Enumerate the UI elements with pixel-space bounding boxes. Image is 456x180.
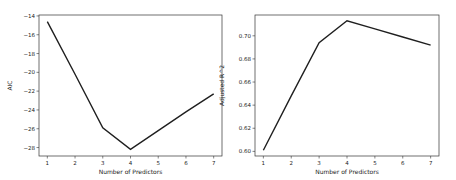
x-tick-label: 3 [317, 160, 321, 166]
data-line [47, 22, 213, 150]
x-tick-label: 7 [429, 160, 433, 166]
y-axis-label: Adjusted R^2 [218, 65, 226, 106]
y-tick-label: −24 [23, 107, 35, 113]
x-tick-label: 4 [129, 160, 133, 166]
y-tick-label: 0.62 [239, 125, 251, 131]
y-axis-label: AIC [6, 80, 13, 90]
x-tick-label: 2 [73, 160, 77, 166]
x-tick-label: 5 [156, 160, 160, 166]
x-tick-label: 6 [401, 160, 405, 166]
x-tick-label: 3 [101, 160, 105, 166]
x-tick-label: 5 [373, 160, 377, 166]
x-tick-label: 6 [184, 160, 188, 166]
x-tick-label: 2 [289, 160, 293, 166]
y-tick-label: 0.60 [239, 148, 252, 154]
y-tick-label: 0.68 [239, 56, 252, 62]
y-tick-label: −20 [23, 69, 35, 75]
chart-canvas: 1234567−14−16−18−20−22−24−26−28Number of… [0, 0, 456, 180]
y-tick-label: 0.70 [239, 33, 252, 39]
x-tick-label: 1 [46, 160, 50, 166]
y-tick-label: 0.66 [239, 79, 252, 85]
x-tick-label: 4 [345, 160, 349, 166]
y-tick-label: −18 [23, 51, 35, 57]
x-axis-label: Number of Predictors [99, 168, 163, 175]
y-tick-label: −14 [23, 13, 35, 19]
y-tick-label: −16 [23, 32, 35, 38]
axes-frame [39, 15, 222, 156]
x-tick-label: 7 [212, 160, 216, 166]
axes-frame [255, 15, 439, 156]
plot-adjusted-r2: 12345670.600.620.640.660.680.70Number of… [218, 15, 439, 175]
data-line [263, 21, 430, 150]
y-tick-label: −28 [23, 145, 35, 151]
y-tick-label: −26 [23, 126, 35, 132]
x-tick-label: 1 [262, 160, 266, 166]
plot-aic: 1234567−14−16−18−20−22−24−26−28Number of… [6, 13, 222, 175]
x-axis-label: Number of Predictors [315, 168, 379, 175]
y-tick-label: 0.64 [239, 102, 252, 108]
y-tick-label: −22 [23, 88, 35, 94]
